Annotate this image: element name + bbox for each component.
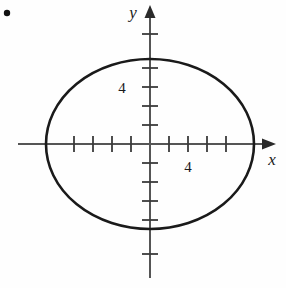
corner-bullet-mark <box>4 10 10 16</box>
y-axis-label: y <box>127 3 137 22</box>
y-axis-tick-label: 4 <box>118 80 126 96</box>
coordinate-plane-svg: 4 4 y x <box>0 0 286 288</box>
x-axis-arrowhead <box>262 139 276 150</box>
ellipse-figure: 4 4 y x <box>0 0 286 288</box>
y-axis-arrowhead <box>145 5 156 18</box>
x-axis-label: x <box>267 150 276 169</box>
x-axis-tick-label: 4 <box>184 159 192 175</box>
